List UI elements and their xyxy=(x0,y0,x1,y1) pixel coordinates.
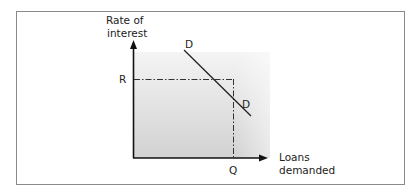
curve-label-bottom: D xyxy=(242,98,250,110)
x-axis-label: Loans xyxy=(279,151,310,163)
loan-demand-diagram: Rate of interest D D R Q Loans demanded xyxy=(0,0,420,193)
y-axis-arrow-icon xyxy=(130,40,137,49)
curve-label-top: D xyxy=(185,38,193,50)
y-axis-label-2: interest xyxy=(107,27,147,39)
y-axis-label: Rate of xyxy=(106,14,144,26)
quantity-marker-label: Q xyxy=(229,164,237,176)
rate-marker-label: R xyxy=(119,73,126,85)
x-axis-label-2: demanded xyxy=(279,164,335,176)
